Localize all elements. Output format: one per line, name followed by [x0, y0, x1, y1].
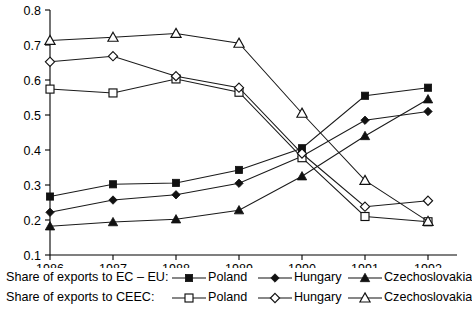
filled-diamond-marker	[172, 191, 180, 199]
filled-square-marker	[361, 92, 368, 99]
open-diamond-marker	[270, 293, 279, 302]
filled-square-marker	[109, 181, 116, 188]
legend-label: Poland	[206, 270, 247, 284]
filled-diamond-marker	[361, 116, 369, 124]
filled-triangle-marker	[360, 131, 369, 139]
y-tick-label: 0.2	[24, 214, 41, 228]
filled-diamond-marker	[271, 273, 279, 281]
open-diamond-marker	[45, 57, 54, 66]
figure-caption	[0, 306, 457, 318]
legend-row-ceec: Share of exports to CEEC: Poland Hungary…	[0, 288, 457, 308]
series-line	[50, 79, 428, 222]
legend-entry-czechoslovakia-ec: Czechoslovakia	[348, 269, 472, 287]
open-square-marker	[46, 85, 54, 93]
line-chart-svg: 0.10.20.30.40.50.60.70.8 198619871988198…	[0, 0, 457, 268]
open-triangle-marker	[171, 28, 181, 37]
series-czechoslovakia-ceec	[45, 28, 433, 225]
x-axis: 1986198719881989199019911992	[36, 255, 457, 268]
legend-label: Poland	[206, 290, 247, 304]
legend-entry-hungary-ec: Hungary	[258, 269, 342, 287]
filled-square-marker	[424, 84, 431, 91]
open-diamond-icon	[258, 291, 292, 303]
filled-square-marker	[185, 274, 192, 281]
filled-square-icon	[172, 271, 206, 283]
legend-entry-hungary-ceec: Hungary	[258, 289, 342, 307]
open-triangle-icon	[348, 291, 382, 303]
legend-label: Czechoslovakia	[382, 290, 472, 304]
series-line	[50, 112, 428, 213]
series-layer	[45, 28, 433, 230]
filled-triangle-marker	[423, 95, 432, 103]
series-line	[50, 33, 428, 221]
open-diamond-marker	[423, 196, 432, 205]
y-tick-label: 0.5	[24, 109, 41, 123]
open-triangle-marker	[360, 293, 370, 302]
plot-area: 0.10.20.30.40.50.60.70.8 198619871988198…	[0, 0, 457, 268]
y-tick-label: 0.6	[24, 74, 41, 88]
y-tick-label: 0.1	[24, 249, 41, 263]
legend-group-title: Share of exports to CEEC:	[6, 290, 154, 304]
legend-entry-czechoslovakia-ceec: Czechoslovakia	[348, 289, 472, 307]
series-czechoslovakia-ec-eu	[45, 95, 432, 230]
legend-entry-poland-ceec: Poland	[172, 289, 247, 307]
y-tick-label: 0.8	[24, 4, 41, 18]
open-square-marker	[361, 213, 369, 221]
filled-diamond-marker	[235, 179, 243, 187]
series-poland-ceec	[46, 75, 432, 226]
filled-square-marker	[46, 193, 53, 200]
legend-label: Hungary	[292, 290, 342, 304]
filled-square-marker	[172, 179, 179, 186]
filled-triangle-icon	[348, 271, 382, 283]
open-square-icon	[172, 291, 206, 303]
legend-label: Czechoslovakia	[382, 270, 472, 284]
open-square-marker	[109, 89, 117, 97]
y-tick-label: 0.3	[24, 179, 41, 193]
open-diamond-marker	[108, 52, 117, 61]
open-square-marker	[185, 294, 193, 302]
y-tick-label: 0.4	[24, 144, 41, 158]
legend-group-title: Share of exports to EC – EU:	[6, 270, 168, 284]
filled-diamond-marker	[46, 208, 54, 216]
legend-label: Hungary	[292, 270, 342, 284]
filled-triangle-marker	[234, 206, 243, 214]
filled-square-marker	[235, 166, 242, 173]
filled-diamond-icon	[258, 271, 292, 283]
filled-diamond-marker	[109, 196, 117, 204]
legend-entry-poland-ec: Poland	[172, 269, 247, 287]
y-tick-label: 0.7	[24, 39, 41, 53]
filled-triangle-marker	[297, 172, 306, 180]
series-hungary-ec-eu	[46, 107, 432, 216]
filled-diamond-marker	[424, 107, 432, 115]
legend-row-ec-eu: Share of exports to EC – EU: Poland Hung…	[0, 268, 457, 288]
